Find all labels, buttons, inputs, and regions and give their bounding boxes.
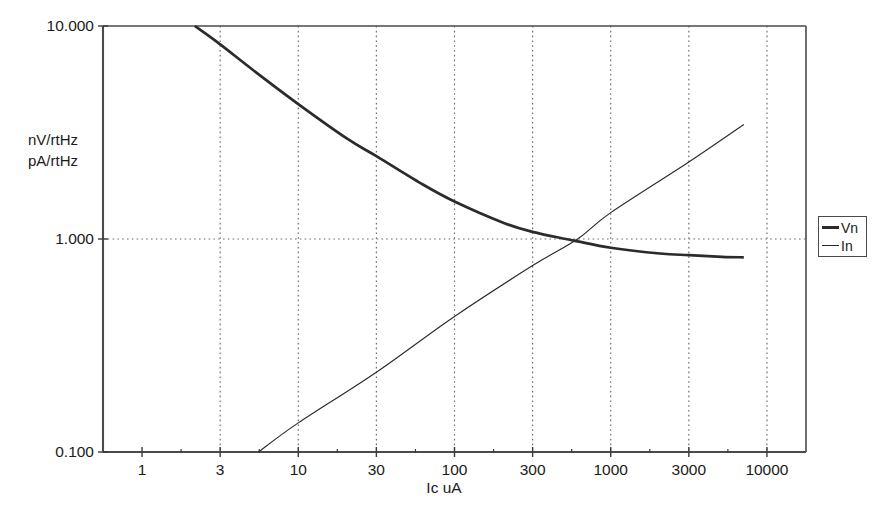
tick-marks-group <box>98 26 767 457</box>
series-line-in <box>258 124 744 452</box>
y-tick-label: 1.000 <box>10 230 94 248</box>
legend-entry-vn: Vn <box>819 218 868 237</box>
legend-entry-in: In <box>819 236 868 255</box>
legend-line-swatch-in <box>822 240 839 252</box>
x-tick-label: 1 <box>138 461 147 479</box>
series-line-vn <box>195 26 744 257</box>
y-axis-label: nV/rtHz pA/rtHz <box>28 129 100 171</box>
plot-canvas <box>0 0 888 524</box>
x-tick-label: 3000 <box>672 461 706 479</box>
y-tick-label: 10.000 <box>10 17 94 35</box>
chart-container: nV/rtHz pA/rtHz 10.0001.0000.100 1310301… <box>0 0 888 524</box>
gridlines-group <box>103 26 806 452</box>
x-tick-label: 100 <box>442 461 468 479</box>
x-axis-title: Ic uA <box>0 479 888 497</box>
legend-label-vn: Vn <box>841 221 858 235</box>
y-tick-label: 0.100 <box>10 443 94 461</box>
x-tick-label: 10000 <box>745 461 788 479</box>
x-tick-label: 3 <box>216 461 225 479</box>
x-tick-label: 300 <box>520 461 546 479</box>
x-tick-label: 10 <box>290 461 307 479</box>
legend-line-swatch-vn <box>822 222 839 234</box>
x-tick-label: 1000 <box>593 461 627 479</box>
y-axis-label-line-2: pA/rtHz <box>28 150 100 171</box>
legend: Vn In <box>818 216 867 257</box>
legend-label-in: In <box>841 239 853 253</box>
x-tick-label: 30 <box>368 461 385 479</box>
y-axis-label-line-1: nV/rtHz <box>28 129 100 150</box>
